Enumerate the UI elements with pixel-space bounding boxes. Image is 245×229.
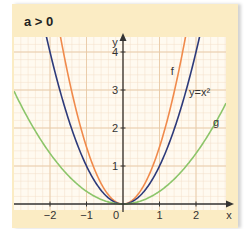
grid-background [14,37,226,210]
curve-label: g [213,116,219,128]
x-tick-label: −2 [44,209,57,221]
x-axis-arrow-icon [226,201,234,208]
x-axis-label: x [226,209,232,221]
x-tick-label: −1 [80,209,93,221]
y-tick-label: 3 [112,84,118,96]
x-tick-label: 2 [193,209,199,221]
y-tick-label: 1 [112,160,118,172]
parabola-plot: −2−10121234xyfy=x²g [0,0,245,229]
y-tick-label: 2 [112,122,118,134]
curve-label: y=x² [189,86,210,98]
y-axis-label: y [112,36,118,48]
x-tick-label: 0 [113,209,119,221]
x-tick-label: 1 [156,209,162,221]
